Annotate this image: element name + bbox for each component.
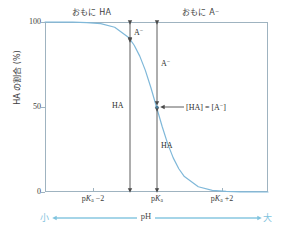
annotation-arrows [0,0,292,233]
equality-part2: ] [223,103,226,112]
equality-part1: [HA] = [A [186,103,220,112]
annotation-a-minus-top: A− [134,27,143,37]
chart-canvas: おもに HA おもに A⁻ 100 50 0 HA の割合 (%) pKa −2… [0,0,292,233]
a-minus-mid-sup: − [167,58,170,64]
annotation-ha-right: HA [161,141,173,150]
a-minus-top-sup: − [140,27,143,33]
annotation-a-minus-mid: A− [161,58,170,68]
annotation-ha-left: HA [112,101,124,110]
annotation-equality: [HA] = [A−] [186,102,226,112]
ph-axis-label: pH [0,211,292,221]
midpoint-marker [155,105,158,108]
ph-axis-label-text: pH [137,211,155,221]
